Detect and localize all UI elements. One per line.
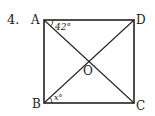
problem-number: 4. [7, 12, 19, 27]
center-label-o: O [83, 64, 93, 78]
angle-label-b: x° [54, 93, 63, 102]
vertex-label-c: C [136, 99, 145, 113]
vertex-label-a: A [30, 13, 40, 27]
angle-label-a: 42° [54, 22, 71, 32]
vertex-label-b: B [32, 97, 41, 111]
angle-arc-a [51, 20, 53, 26]
vertex-label-d: D [136, 13, 146, 27]
square-diagram: 4. 42° x° A D B C O [0, 0, 155, 116]
angle-arc-b [50, 98, 52, 103]
